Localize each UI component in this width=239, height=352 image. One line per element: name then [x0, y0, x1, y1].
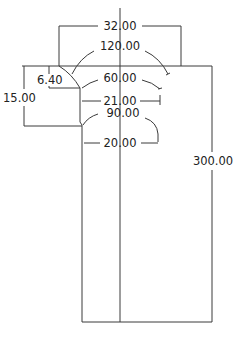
dim-mid-angle-label: 60.00 [104, 71, 137, 85]
dim-tube-width: 20.00 [84, 136, 158, 150]
dim-total-length-label: 300.00 [193, 154, 233, 168]
dim-tube-width-label: 20.00 [104, 136, 137, 150]
dim-top-angle: 120.00 [72, 39, 170, 75]
dim-taper-depth-label: 15.00 [3, 91, 36, 105]
dim-chamfer-depth-label: 6.40 [37, 73, 63, 87]
dim-top-width-label: 32.00 [104, 19, 137, 33]
dim-total-length: 300.00 [193, 66, 233, 322]
dim-mid-angle: 60.00 [82, 71, 162, 89]
dim-top-angle-label: 120.00 [100, 39, 140, 53]
technical-drawing: 32.00 120.00 6.40 15.00 60.00 21.00 [0, 0, 239, 352]
dim-lower-angle-label: 90.00 [107, 106, 140, 120]
dim-chamfer-depth: 6.40 [37, 66, 80, 88]
